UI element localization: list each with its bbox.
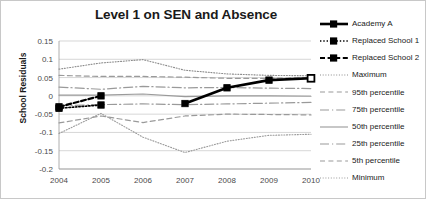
series-line — [59, 113, 311, 152]
data-point-marker — [98, 102, 104, 108]
y-tick-label: 0.05 — [37, 74, 53, 83]
legend-item[interactable]: 50th percentile — [319, 118, 404, 135]
series-line — [59, 60, 311, 76]
series-line — [185, 78, 311, 103]
y-tick-label: -0.1 — [39, 128, 53, 137]
legend-swatch-icon — [319, 172, 349, 184]
legend-label: 75th percentile — [352, 105, 404, 114]
data-point-marker-final — [308, 75, 315, 82]
legend-swatch-icon — [319, 86, 349, 98]
series-line — [59, 86, 311, 89]
legend-label: Replaced School 1 — [352, 36, 419, 45]
legend-item[interactable]: Maximum — [319, 66, 387, 83]
legend-label: Academy A — [352, 19, 392, 28]
x-tick-label: 2007 — [176, 176, 194, 185]
data-point-marker — [266, 77, 272, 83]
legend-item[interactable]: 75th percentile — [319, 101, 404, 118]
legend-swatch-icon — [319, 35, 349, 47]
chart-container: Level 1 on SEN and Absence School Residu… — [0, 0, 426, 199]
legend-label: 50th percentile — [352, 122, 404, 131]
legend-item[interactable]: 25th percentile — [319, 135, 404, 152]
x-tick-labels-group: 2004200520062007200820092010 — [50, 176, 320, 185]
legend-label: Minimum — [352, 173, 384, 182]
y-tick-label: 0 — [49, 92, 54, 101]
y-tick-label: -0.05 — [35, 110, 54, 119]
data-point-marker — [182, 100, 188, 106]
legend-swatch-icon — [319, 138, 349, 150]
legend-item[interactable]: Minimum — [319, 169, 384, 186]
legend-swatch-icon — [319, 155, 349, 167]
legend-label: 5th percentile — [352, 156, 400, 165]
y-tick-label: -0.15 — [35, 147, 54, 156]
x-tick-label: 2008 — [218, 176, 236, 185]
legend-swatch-icon — [319, 104, 349, 116]
legend-label: 25th percentile — [352, 139, 404, 148]
legend-label: Replaced School 2 — [352, 53, 419, 62]
x-tick-label: 2009 — [260, 176, 278, 185]
y-tick-label: 0.15 — [37, 37, 53, 46]
legend-item[interactable]: Replaced School 1 — [319, 32, 419, 49]
y-tick-labels-group: 0.150.10.050-0.05-0.1-0.15-0.2 — [35, 37, 54, 174]
x-tick-label: 2004 — [50, 176, 68, 185]
x-tick-label: 2006 — [134, 176, 152, 185]
y-tick-label: 0.1 — [42, 55, 54, 64]
legend-label: Maximum — [352, 70, 387, 79]
legend-item[interactable]: 5th percentile — [319, 152, 400, 169]
x-tick-label: 2005 — [92, 176, 110, 185]
chart-legend: Academy AReplaced School 1Replaced Schoo… — [319, 9, 426, 195]
x-tick-label: 2010 — [302, 176, 320, 185]
y-tick-label: -0.2 — [39, 165, 53, 174]
data-point-marker — [98, 93, 104, 99]
legend-item[interactable]: 95th percentile — [319, 84, 404, 101]
data-point-marker — [56, 104, 62, 110]
legend-item[interactable]: Academy A — [319, 15, 392, 32]
data-series-group — [56, 60, 315, 153]
legend-label: 95th percentile — [352, 88, 404, 97]
legend-item[interactable]: Replaced School 2 — [319, 49, 419, 66]
data-point-marker — [224, 85, 230, 91]
legend-swatch-icon — [319, 69, 349, 81]
legend-swatch-icon — [319, 121, 349, 133]
legend-swatch-icon — [319, 52, 349, 64]
legend-swatch-icon — [319, 18, 349, 30]
